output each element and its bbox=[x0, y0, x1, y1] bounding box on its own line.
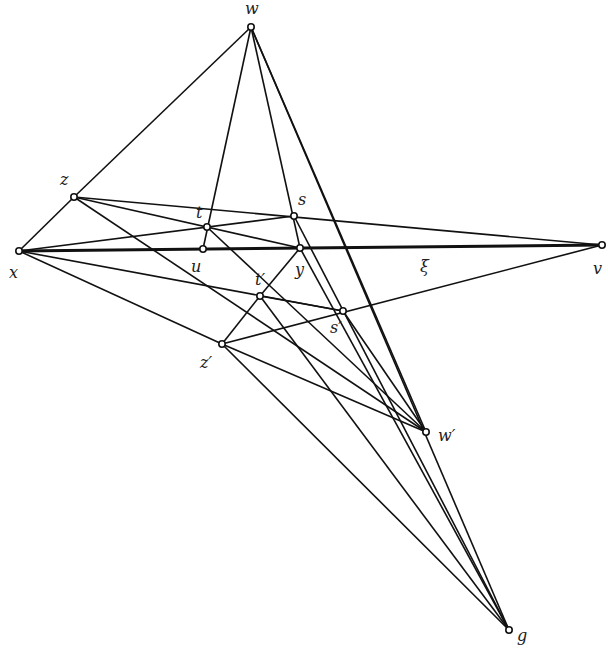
line-y-g bbox=[300, 248, 509, 630]
point-label-w: w bbox=[245, 0, 259, 18]
line-layer bbox=[19, 27, 602, 630]
point-label-y: y bbox=[294, 260, 305, 279]
point-label-u: u bbox=[191, 257, 201, 276]
point-layer bbox=[16, 24, 605, 633]
point-label-s2: s′ bbox=[330, 318, 342, 337]
point-label-x: x bbox=[9, 263, 18, 282]
point-t2 bbox=[257, 293, 263, 299]
line-t2-y bbox=[260, 248, 300, 296]
point-label-g: g bbox=[517, 626, 527, 645]
point-s2 bbox=[340, 308, 346, 314]
line-x-s bbox=[19, 216, 294, 251]
point-x bbox=[16, 248, 22, 254]
line-z2-g bbox=[222, 344, 509, 630]
label-xi: ξ bbox=[420, 257, 430, 276]
point-label-z: z bbox=[59, 170, 69, 189]
point-y bbox=[297, 245, 303, 251]
point-label-s: s bbox=[298, 190, 306, 209]
point-z2 bbox=[219, 341, 225, 347]
point-label-w2: w′ bbox=[438, 426, 456, 445]
line-w-u bbox=[203, 27, 251, 249]
line-w-g bbox=[251, 27, 509, 630]
line-z-x bbox=[19, 197, 74, 251]
desargues-diagram: wzxtusyvt′s′z′w′gξ bbox=[0, 0, 608, 652]
point-w bbox=[248, 24, 254, 30]
point-w2 bbox=[423, 429, 429, 435]
point-label-v: v bbox=[593, 259, 602, 278]
point-label-z2: z′ bbox=[199, 353, 212, 372]
point-label-t2: t′ bbox=[255, 270, 265, 289]
point-u bbox=[200, 246, 206, 252]
point-z bbox=[71, 194, 77, 200]
line-t2-g bbox=[260, 296, 509, 630]
line-z2-t2 bbox=[222, 296, 260, 344]
point-t bbox=[204, 224, 210, 230]
point-g bbox=[506, 627, 512, 633]
point-label-t: t bbox=[196, 203, 203, 222]
point-s bbox=[291, 213, 297, 219]
line-w-z bbox=[74, 27, 251, 197]
line-z-v bbox=[74, 197, 602, 245]
point-v bbox=[599, 242, 605, 248]
